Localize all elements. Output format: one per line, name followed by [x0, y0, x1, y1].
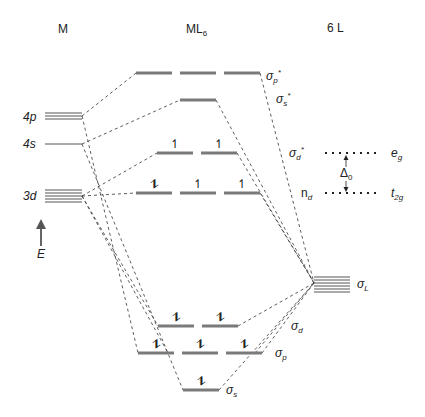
label-t2g: t2g: [391, 186, 404, 202]
label-sigma-s: σs: [226, 383, 237, 399]
svg-text:⥮: ⥮: [196, 337, 205, 351]
label-sigma-s-star: σs*: [276, 91, 291, 108]
metal-3d-level: [45, 190, 82, 202]
label-sigma-d: σd: [291, 319, 303, 335]
header-metal: M: [58, 22, 68, 36]
svg-text:⥮: ⥮: [240, 337, 249, 351]
energy-label: E: [37, 247, 46, 261]
label-n-d: nd: [301, 186, 313, 202]
electron-arrows: ↿ ↿ ⥮ ↿ ↿ ⥮ ⥮ ⥮ ⥮ ⥮ ⥮: [150, 137, 249, 388]
label-sigma-d-star: σd*: [289, 145, 305, 162]
metal-4p-level: [45, 113, 82, 119]
label-delta-o: Δ0: [340, 166, 353, 182]
svg-text:↿: ↿: [193, 177, 203, 191]
svg-text:↿: ↿: [170, 137, 180, 151]
label-sigma-p: σp: [275, 346, 287, 362]
label-3d: 3d: [23, 189, 37, 203]
label-4p: 4p: [23, 110, 37, 124]
mo-diagram: M ML6 6 L 4p 4s 3d E: [0, 0, 425, 417]
svg-text:⥮: ⥮: [152, 337, 161, 351]
label-eg: eg: [391, 146, 403, 162]
svg-text:⥮: ⥮: [197, 374, 206, 388]
label-4s: 4s: [23, 137, 36, 151]
svg-text:⥮: ⥮: [172, 310, 181, 324]
label-sigma-p-star: σp*: [266, 68, 282, 85]
svg-text:↿: ↿: [237, 177, 247, 191]
svg-text:⥮: ⥮: [216, 310, 225, 324]
svg-text:⥮: ⥮: [150, 177, 159, 191]
header-ligands: 6 L: [327, 21, 344, 35]
svg-text:↿: ↿: [214, 137, 224, 151]
label-sigma-L: σL: [357, 277, 369, 293]
ligand-sigma-levels: [314, 277, 350, 292]
arrow-up-icon: [36, 219, 46, 246]
header-complex: ML6: [186, 22, 208, 38]
